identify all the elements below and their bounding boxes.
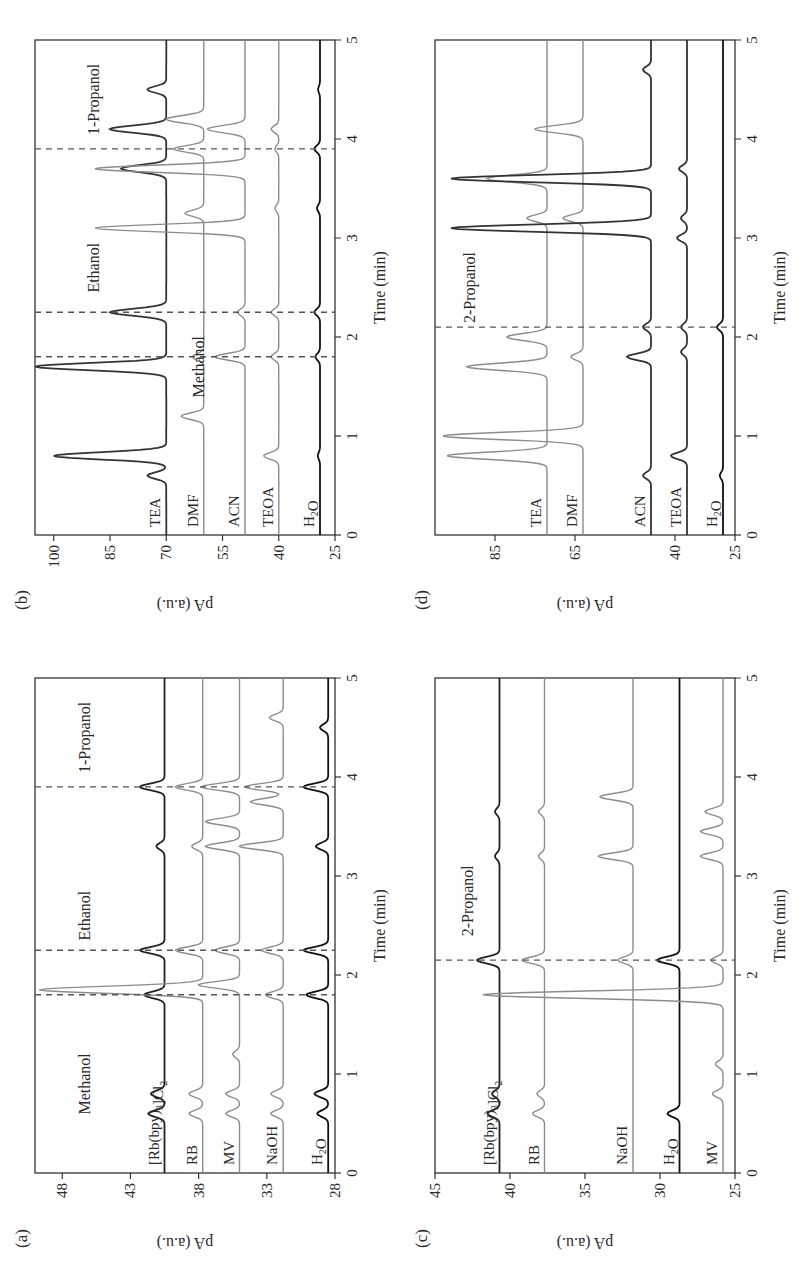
series-label: TEA — [528, 498, 544, 527]
x-tick-label: 5 — [344, 36, 360, 44]
series-label: H2O — [309, 1138, 329, 1165]
y-tick-label: 25 — [727, 545, 743, 560]
y-axis-label: pA (a.u.) — [557, 1234, 613, 1252]
plot-frame — [435, 40, 735, 535]
y-tick-label: 40 — [502, 1183, 518, 1198]
series-label: NaOH — [614, 1126, 630, 1165]
y-axis-label: pA (a.u.) — [157, 596, 213, 614]
x-tick-label: 1 — [344, 1070, 360, 1078]
panel-label: (d) — [412, 590, 431, 610]
x-tick-label: 0 — [344, 531, 360, 539]
x-tick-label: 2 — [344, 333, 360, 341]
series-label: H2O — [661, 1138, 681, 1165]
x-axis-label: Time (min) — [371, 889, 389, 962]
series-label: DMF — [185, 494, 201, 527]
x-tick-label: 3 — [744, 872, 760, 880]
panel-c: (c)pA (a.u.)Time (min)01234525303540452-… — [405, 648, 805, 1268]
x-tick-label: 4 — [344, 135, 360, 143]
y-tick-label: 65 — [567, 545, 583, 560]
x-tick-label: 3 — [344, 872, 360, 880]
x-tick-label: 2 — [344, 971, 360, 979]
series-trace — [671, 40, 687, 535]
x-axis-label: Time (min) — [771, 889, 789, 962]
x-tick-label: 0 — [744, 1169, 760, 1177]
y-tick-label: 100 — [46, 545, 62, 568]
x-tick-label: 2 — [744, 971, 760, 979]
panel-a: (a)pA (a.u.)Time (min)0123452833384348Me… — [5, 648, 405, 1268]
series-label: ACN — [226, 495, 242, 527]
x-tick-label: 2 — [744, 333, 760, 341]
series-trace — [522, 678, 545, 1173]
x-tick-label: 0 — [744, 531, 760, 539]
series-trace — [657, 678, 680, 1173]
x-tick-label: 3 — [344, 234, 360, 242]
y-tick-label: 48 — [54, 1183, 70, 1198]
y-tick-label: 55 — [215, 545, 231, 560]
series-trace — [599, 678, 634, 1173]
x-tick-label: 1 — [344, 432, 360, 440]
peak-annotation: Ethanol — [76, 890, 93, 940]
series-label: RB — [526, 1145, 542, 1165]
y-tick-label: 30 — [652, 1183, 668, 1198]
series-label: MV — [704, 1141, 720, 1165]
series-label: NaOH — [264, 1126, 280, 1165]
y-axis-label: pA (a.u.) — [157, 1234, 213, 1252]
x-tick-label: 5 — [744, 36, 760, 44]
peak-annotation: Methanol — [190, 335, 207, 397]
series-label: ACN — [632, 495, 648, 527]
peak-annotation: Methanol — [76, 1053, 93, 1115]
x-tick-label: 5 — [744, 674, 760, 682]
y-tick-label: 85 — [487, 545, 503, 560]
series-label: TEOA — [668, 487, 684, 527]
chart-c: (c)pA (a.u.)Time (min)01234525303540452-… — [405, 648, 805, 1268]
y-tick-label: 33 — [259, 1183, 275, 1198]
peak-annotation: 1-Propanol — [76, 701, 94, 773]
series-label: MV — [221, 1141, 237, 1165]
peak-annotation: 2-Propanol — [461, 251, 479, 323]
y-tick-label: 40 — [667, 545, 683, 560]
series-label: DMF — [564, 494, 580, 527]
x-tick-label: 4 — [344, 773, 360, 781]
panel-label: (b) — [12, 590, 31, 610]
chart-d: (d)pA (a.u.)Time (min)012345254065852-Pr… — [405, 10, 805, 630]
peak-annotation: Ethanol — [85, 242, 102, 292]
x-tick-label: 1 — [744, 1070, 760, 1078]
series-trace — [199, 678, 240, 1173]
plot-frame — [35, 40, 335, 535]
series-label: RB — [184, 1145, 200, 1165]
x-tick-label: 4 — [744, 135, 760, 143]
series-label: H2O — [301, 500, 321, 527]
y-tick-label: 35 — [577, 1183, 593, 1198]
series-trace — [483, 678, 723, 1173]
plot-frame — [435, 678, 735, 1173]
peak-annotation: 1-Propanol — [85, 63, 103, 135]
panel-label: (c) — [412, 1229, 431, 1248]
series-trace — [166, 40, 204, 535]
y-tick-label: 25 — [727, 1183, 743, 1198]
series-trace — [264, 40, 279, 535]
series-label: H2O — [704, 500, 724, 527]
y-axis-label: pA (a.u.) — [557, 596, 613, 614]
series-trace — [451, 40, 651, 535]
peak-annotation: 2-Propanol — [459, 865, 477, 937]
series-trace — [304, 678, 329, 1173]
x-tick-label: 5 — [344, 674, 360, 682]
series-trace — [717, 40, 723, 535]
y-tick-label: 28 — [327, 1183, 343, 1198]
y-tick-label: 40 — [271, 545, 287, 560]
panel-b: (b)pA (a.u.)Time (min)012345254055708510… — [5, 10, 405, 630]
chart-a: (a)pA (a.u.)Time (min)0123452833384348Me… — [5, 648, 405, 1268]
series-trace — [240, 678, 284, 1173]
x-tick-label: 1 — [744, 432, 760, 440]
x-tick-label: 3 — [744, 234, 760, 242]
panel-label: (a) — [12, 1229, 31, 1248]
x-axis-label: Time (min) — [371, 251, 389, 324]
y-tick-label: 25 — [327, 545, 343, 560]
y-tick-label: 85 — [102, 545, 118, 560]
y-tick-label: 45 — [427, 1183, 443, 1198]
y-tick-label: 43 — [122, 1183, 138, 1198]
series-label: TEOA — [260, 487, 276, 527]
panel-d: (d)pA (a.u.)Time (min)012345254065852-Pr… — [405, 10, 805, 630]
x-tick-label: 0 — [344, 1169, 360, 1177]
series-label: TEA — [147, 498, 163, 527]
